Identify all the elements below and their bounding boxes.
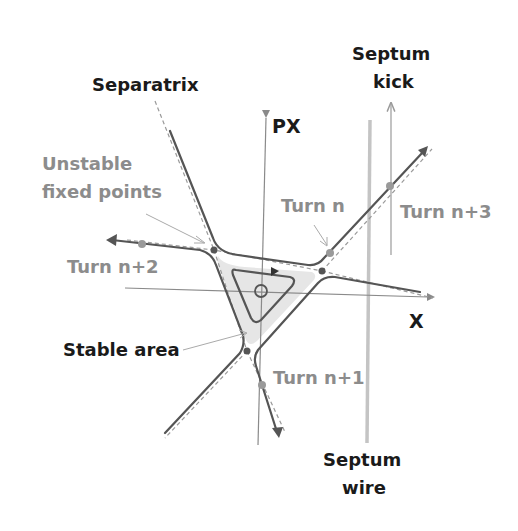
stable-area-fill <box>217 256 315 344</box>
separatrix-arrow-left-icon <box>106 234 117 246</box>
px-axis-label: PX <box>272 115 301 137</box>
phase-space-diagram: Separatrix Unstable fixed points PX Sept… <box>0 0 518 531</box>
turn-n-point <box>326 249 334 257</box>
separatrix-arrow-bottom-icon <box>272 427 283 438</box>
turn-n2-point <box>138 240 146 248</box>
x-axis-label: X <box>409 310 424 332</box>
unstable-pointer-arrow-icon <box>194 236 205 243</box>
septum-kick-label-1: Septum <box>352 43 430 64</box>
unstable-fixed-points-label-2: fixed points <box>42 181 162 202</box>
septum-kick-label-2: kick <box>373 71 415 92</box>
stable-area-label: Stable area <box>63 339 180 360</box>
unstable-fixed-point-left <box>211 247 218 254</box>
turn-n1-label: Turn n+1 <box>273 367 365 388</box>
turn-n-label: Turn n <box>281 195 345 216</box>
septum-wire-label-1: Septum <box>323 449 401 470</box>
unstable-fixed-point-right <box>319 268 326 275</box>
separatrix-label: Separatrix <box>92 74 199 95</box>
px-axis-arrow-icon <box>262 110 270 118</box>
turn-n2-label: Turn n+2 <box>67 256 159 277</box>
turn-n-pointer-arrow-icon <box>320 237 327 246</box>
unstable-fixed-points-label-1: Unstable <box>42 153 132 174</box>
septum-wire-label-2: wire <box>342 477 386 498</box>
turn-n3-point <box>386 182 394 190</box>
unstable-fixed-point-bottom <box>244 348 251 355</box>
septum-wire <box>367 120 370 443</box>
turn-n3-label: Turn n+3 <box>400 201 492 222</box>
diagram-canvas: Separatrix Unstable fixed points PX Sept… <box>0 0 518 531</box>
turn-n1-point <box>258 381 266 389</box>
